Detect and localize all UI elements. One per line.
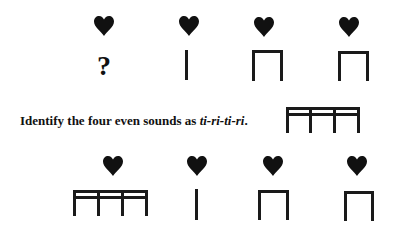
ti-ti-notation [252,50,283,81]
instruction-text: Identify the four even sounds as ti-ri-t… [20,113,248,129]
heart-icon [178,15,200,37]
heart-icon [338,16,360,38]
instruction-syllables: ti-ri-ti-ri [200,113,245,128]
heart-icon [262,155,284,177]
instruction-prefix: Identify the four even sounds as [20,113,200,128]
heart-icon [346,155,368,177]
ti-ti-notation [344,191,374,221]
ti-ri-ti-ri-example-notation [286,107,360,133]
heart-icon [93,15,115,37]
ti-ri-ti-ri-notation [73,190,148,216]
heart-icon [253,16,275,38]
instruction-suffix: . [244,113,247,128]
heart-icon [186,155,208,177]
ta-notation [195,189,198,220]
heart-icon [102,155,124,177]
ti-ti-notation [258,190,289,220]
ti-ti-notation [338,51,369,81]
unknown-rhythm-question-mark: ? [97,52,111,80]
ta-notation [185,50,188,80]
